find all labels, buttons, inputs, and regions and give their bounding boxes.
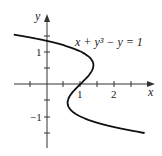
y-tick-label-1: 1 — [36, 46, 42, 58]
y-axis-arrow-icon — [44, 14, 50, 22]
x-tick-label-1: 1 — [77, 88, 83, 100]
x-tick-label-2: 2 — [111, 88, 117, 100]
implicit-curve-plot: y x 1 2 1 −1 x + y³ − y = 1 — [0, 0, 162, 156]
plot-canvas: y x 1 2 1 −1 x + y³ − y = 1 — [0, 0, 162, 156]
equation-label: x + y³ − y = 1 — [74, 35, 143, 49]
y-tick-label-neg1: −1 — [30, 111, 42, 123]
x-axis-label: x — [147, 85, 154, 99]
y-axis-label: y — [34, 9, 41, 23]
